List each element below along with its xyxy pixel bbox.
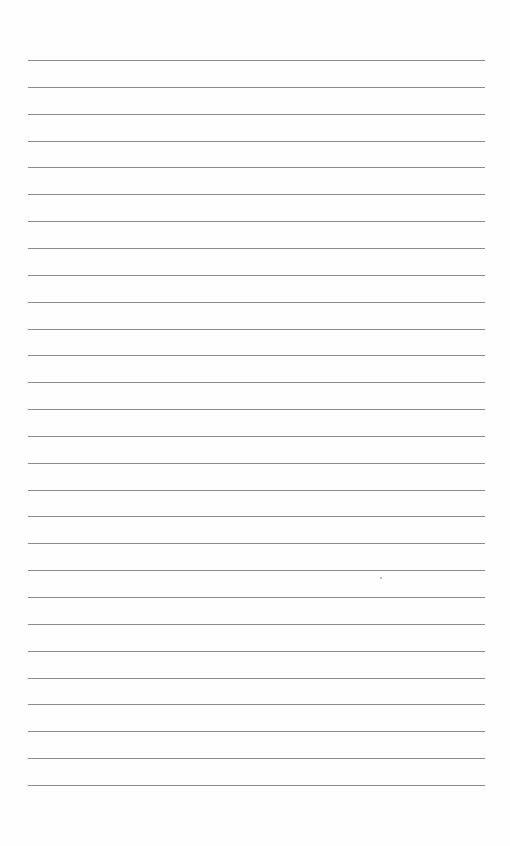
ruled-line bbox=[28, 221, 485, 222]
ruled-line bbox=[28, 651, 485, 652]
ruled-line bbox=[28, 60, 485, 61]
ruled-line bbox=[28, 516, 485, 517]
ruled-line bbox=[28, 463, 485, 464]
ruled-line bbox=[28, 758, 485, 759]
ruled-line bbox=[28, 597, 485, 598]
ruled-line bbox=[28, 275, 485, 276]
ruled-line bbox=[28, 382, 485, 383]
ruled-line bbox=[28, 329, 485, 330]
ruled-line bbox=[28, 167, 485, 168]
ruled-line bbox=[28, 704, 485, 705]
ruled-line bbox=[28, 570, 485, 571]
stray-mark bbox=[380, 577, 382, 579]
ruled-line bbox=[28, 490, 485, 491]
ruled-line bbox=[28, 355, 485, 356]
ruled-line bbox=[28, 436, 485, 437]
ruled-line bbox=[28, 785, 485, 786]
ruled-line bbox=[28, 624, 485, 625]
ruled-line bbox=[28, 731, 485, 732]
ruled-line bbox=[28, 141, 485, 142]
ruled-line bbox=[28, 87, 485, 88]
ruled-line bbox=[28, 114, 485, 115]
ruled-line bbox=[28, 194, 485, 195]
ruled-line bbox=[28, 543, 485, 544]
ruled-line bbox=[28, 302, 485, 303]
ruled-line bbox=[28, 678, 485, 679]
ruled-line bbox=[28, 248, 485, 249]
lined-paper-page bbox=[0, 0, 510, 846]
ruled-line bbox=[28, 409, 485, 410]
